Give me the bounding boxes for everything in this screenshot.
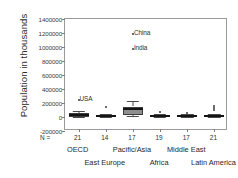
- whisker-cap-upper: [127, 101, 139, 102]
- point-annotation-china: China: [134, 29, 150, 36]
- outlier-point: [159, 111, 161, 113]
- box-plot: [204, 19, 224, 131]
- x-category-label: Pacific/Asia: [113, 145, 151, 154]
- y-tick-label: 0: [59, 114, 62, 121]
- y-tick-label: 1000000: [39, 44, 62, 51]
- n-value: 14: [101, 134, 108, 141]
- outlier-point: [186, 112, 188, 114]
- y-tick-mark: [62, 33, 65, 34]
- outlier-point: [105, 106, 107, 108]
- n-value: 19: [156, 134, 163, 141]
- boxplot-chart: Population in thousands 1400000120000010…: [0, 0, 238, 178]
- y-tick-mark: [62, 47, 65, 48]
- y-tick-label: 400000: [42, 86, 62, 93]
- n-value: 21: [74, 134, 81, 141]
- x-category-label: Middle East: [167, 145, 206, 154]
- box-plot: [177, 19, 197, 131]
- y-tick-label: 200000: [42, 100, 62, 107]
- x-category-label: OECD: [67, 145, 88, 154]
- median-line: [204, 115, 224, 117]
- whisker-cap-lower: [72, 117, 84, 118]
- median-line: [69, 114, 89, 116]
- box-plot: [69, 19, 89, 131]
- y-tick-label: 1200000: [39, 30, 62, 37]
- y-tick-mark: [62, 103, 65, 104]
- whisker-cap-lower: [127, 116, 139, 117]
- n-row-label: N =: [40, 134, 50, 141]
- outlier-point: [213, 107, 215, 109]
- median-line: [96, 115, 116, 117]
- y-tick-mark: [62, 19, 65, 20]
- n-value: 17: [128, 134, 135, 141]
- box-plot: [96, 19, 116, 131]
- outlier-point: [213, 109, 215, 111]
- y-tick-label: 600000: [42, 72, 62, 79]
- y-axis-title: Population in thousands: [18, 0, 29, 136]
- y-tick-mark: [62, 89, 65, 90]
- y-tick-mark: [62, 75, 65, 76]
- y-tick-label: 1400000: [39, 16, 62, 23]
- median-line: [177, 115, 197, 117]
- y-tick-mark: [62, 61, 65, 62]
- median-line: [123, 108, 143, 110]
- x-category-label: East Europe: [84, 158, 125, 167]
- outlier-point: [213, 105, 215, 107]
- y-tick-label: 800000: [42, 58, 62, 65]
- point-annotation-india: India: [134, 44, 147, 51]
- y-tick-mark: [62, 131, 65, 132]
- n-value: 17: [183, 134, 190, 141]
- x-category-label: Latin America: [191, 158, 236, 167]
- y-tick-mark: [62, 117, 65, 118]
- box-plot: [123, 19, 143, 131]
- x-category-label: Africa: [150, 158, 169, 167]
- median-line: [150, 115, 170, 117]
- n-value: 21: [210, 134, 217, 141]
- box-plot: [150, 19, 170, 131]
- point-annotation-usa: USA: [80, 95, 93, 102]
